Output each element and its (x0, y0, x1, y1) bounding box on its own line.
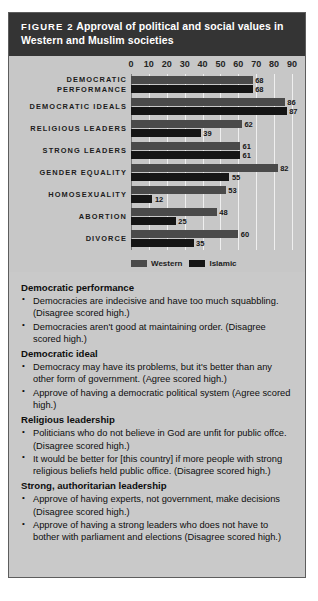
category-label: DEMOCRATIC PERFORMANCE (9, 75, 127, 95)
note-heading: Strong, authoritarian leadership (21, 479, 293, 492)
legend-item-western: Western (131, 260, 182, 268)
note-heading: Religious leadership (21, 413, 293, 426)
legend-label: Western (151, 260, 182, 268)
bar-western (131, 230, 238, 238)
bar-value-label: 82 (280, 163, 288, 172)
bar-value-label: 86 (287, 97, 295, 106)
bar-western (131, 120, 242, 128)
bar-value-label: 12 (155, 195, 163, 204)
bar-islamic (131, 173, 229, 181)
bar-value-label: 68 (255, 85, 263, 94)
note-list: Democracies are indecisive and have too … (21, 295, 293, 346)
bar-western (131, 142, 240, 150)
note-item: Democracies aren't good at maintaining o… (21, 321, 293, 346)
note-item: Approve of having a democratic political… (21, 387, 293, 412)
category-label: DEMOCRATIC IDEALS (9, 102, 127, 112)
legend-swatch (189, 260, 205, 267)
note-item: Democracy may have its problems, but it'… (21, 361, 293, 386)
x-axis-tick-10: 10 (144, 59, 154, 69)
bar-value-label: 35 (196, 239, 204, 248)
bar-western (131, 186, 226, 194)
legend-swatch (131, 260, 147, 267)
bar-value-label: 61 (243, 151, 251, 160)
bar-chart: 0102030405060708090 DEMOCRATIC PERFORMAN… (9, 56, 305, 272)
plot-area: 68688687623961618255531248256035 (131, 74, 292, 250)
note-item: It would be better for [this country] if… (21, 453, 293, 478)
note-list: Politicians who do not believe in God ar… (21, 427, 293, 478)
bar-islamic (131, 85, 253, 93)
category-label: RELIGIOUS LEADERS (9, 124, 127, 134)
bar-western (131, 164, 278, 172)
category-label: STRONG LEADERS (9, 146, 127, 156)
legend-item-islamic: Islamic (189, 260, 236, 268)
x-axis-tick-50: 50 (215, 59, 225, 69)
note-list: Democracy may have its problems, but it'… (21, 361, 293, 412)
x-axis-tick-90: 90 (287, 59, 297, 69)
x-axis-tick-60: 60 (233, 59, 243, 69)
bar-value-label: 53 (228, 185, 236, 194)
category-label: DIVORCE (9, 234, 127, 244)
bar-value-label: 62 (244, 119, 252, 128)
note-item: Approve of having experts, not governmen… (21, 493, 293, 518)
bar-western (131, 76, 253, 84)
note-item: Democracies are indecisive and have too … (21, 295, 293, 320)
x-axis-tick-40: 40 (198, 59, 208, 69)
bar-islamic (131, 107, 287, 115)
category-label: HOMOSEXUALITY (9, 190, 127, 200)
figure-label: FIGURE 2 (21, 21, 74, 32)
note-heading: Democratic ideal (21, 347, 293, 360)
notes-section: Democratic performanceDemocracies are in… (9, 272, 305, 554)
bar-value-label: 60 (241, 229, 249, 238)
x-axis-tick-80: 80 (269, 59, 279, 69)
x-axis-tick-0: 0 (128, 59, 133, 69)
bar-value-label: 68 (255, 75, 263, 84)
category-labels: DEMOCRATIC PERFORMANCEDEMOCRATIC IDEALSR… (9, 74, 127, 250)
note-item: Approve of having a strong leaders who d… (21, 519, 293, 544)
bar-value-label: 48 (219, 207, 227, 216)
note-list: Approve of having experts, not governmen… (21, 493, 293, 544)
note-item: Politicians who do not believe in God ar… (21, 427, 293, 452)
bar-value-label: 25 (178, 217, 186, 226)
bar-islamic (131, 217, 176, 225)
bar-islamic (131, 151, 240, 159)
bar-value-label: 39 (203, 129, 211, 138)
bar-value-label: 87 (289, 107, 297, 116)
bar-value-label: 55 (232, 173, 240, 182)
bar-western (131, 208, 217, 216)
x-axis-tick-30: 30 (180, 59, 190, 69)
bar-islamic (131, 239, 194, 247)
x-axis-tick-labels: 0102030405060708090 (9, 59, 305, 72)
bar-islamic (131, 129, 201, 137)
x-axis-tick-70: 70 (251, 59, 261, 69)
note-heading: Democratic performance (21, 281, 293, 294)
category-label: ABORTION (9, 212, 127, 222)
x-axis-tick-20: 20 (162, 59, 172, 69)
figure-header: FIGURE 2 Approval of political and socia… (9, 13, 305, 56)
legend-label: Islamic (209, 260, 236, 268)
bar-value-label: 61 (243, 141, 251, 150)
bar-western (131, 98, 285, 106)
figure-container: FIGURE 2 Approval of political and socia… (8, 12, 306, 578)
chart-legend: WesternIslamic (131, 260, 237, 268)
bar-islamic (131, 195, 152, 203)
category-label: GENDER EQUALITY (9, 168, 127, 178)
